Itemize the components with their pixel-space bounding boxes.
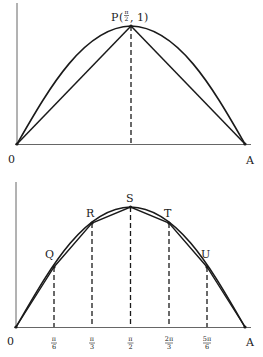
bottom-figure: Q R S T U 0 A π 6 π 3 π 2 2π 3 5π	[7, 182, 255, 351]
point-U	[205, 265, 208, 268]
label-Q: Q	[45, 248, 54, 261]
tick-label-2pi-over-3: 2π 3	[165, 335, 174, 351]
point-A-bottom	[243, 325, 246, 328]
point-R	[90, 221, 93, 224]
tick-numerator: 2π	[165, 335, 174, 343]
tick-numerator: π	[90, 335, 95, 343]
peak-paren-close: )	[144, 11, 148, 24]
dashed-verticals	[54, 207, 207, 327]
label-R: R	[86, 207, 95, 220]
peak-y-value: 1	[137, 11, 144, 24]
point-T	[167, 221, 170, 224]
tick-label-5pi-over-6: 5π 6	[203, 335, 212, 351]
top-figure: 0 A P ( π 2 , 1 )	[8, 3, 255, 167]
bottom-origin-label: 0	[7, 335, 14, 348]
tick-numerator: π	[128, 335, 133, 343]
top-end-label: A	[245, 154, 255, 167]
chord-OP	[17, 26, 131, 144]
peak-comma: ,	[130, 11, 134, 24]
tick-denominator: 6	[52, 343, 56, 351]
label-U: U	[201, 248, 210, 261]
tick-label-pi-over-6: π 6	[51, 335, 57, 351]
tick-numerator: π	[52, 335, 57, 343]
peak-paren-open: (	[119, 11, 123, 24]
point-Q	[52, 265, 55, 268]
point-O-top	[15, 142, 18, 145]
tick-label-pi-over-3: π 3	[89, 335, 95, 351]
peak-label-name: P	[111, 11, 119, 24]
tick-denominator: 3	[90, 343, 94, 351]
chord-PA	[131, 26, 245, 144]
peak-x-denominator: 2	[125, 15, 129, 22]
top-origin-label: 0	[8, 153, 15, 166]
tick-denominator: 6	[205, 343, 209, 351]
point-O-bottom	[14, 325, 17, 328]
point-S	[129, 205, 132, 208]
bottom-end-label: A	[245, 336, 255, 349]
tick-numerator: 5π	[203, 335, 212, 343]
point-P	[129, 24, 132, 27]
peak-x-numerator: π	[125, 8, 129, 15]
tick-denominator: 3	[167, 343, 171, 351]
point-A-top	[243, 142, 246, 145]
label-T: T	[164, 207, 172, 220]
tick-label-pi-over-2: π 2	[128, 335, 134, 351]
peak-label: P ( π 2 , 1 )	[111, 8, 148, 24]
label-S: S	[126, 192, 134, 205]
tick-denominator: 2	[128, 343, 132, 351]
diagram-canvas: 0 A P ( π 2 , 1 )	[0, 0, 263, 357]
